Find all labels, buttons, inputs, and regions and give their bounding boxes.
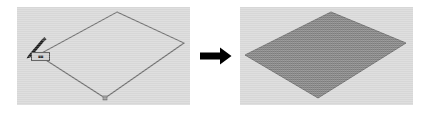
parallelogram-filled-after[interactable] bbox=[245, 12, 406, 98]
viewport-after bbox=[240, 7, 413, 105]
vertex-marker-bottom[interactable] bbox=[103, 96, 107, 100]
parallelogram-outline-before[interactable] bbox=[38, 12, 184, 98]
panel-after bbox=[240, 7, 413, 105]
viewport-before bbox=[17, 7, 190, 105]
before-after-figure: ■■ bbox=[0, 0, 428, 113]
transition-arrow bbox=[199, 44, 233, 68]
panel-before: ■■ bbox=[17, 7, 190, 105]
right-arrow-icon bbox=[199, 44, 233, 68]
